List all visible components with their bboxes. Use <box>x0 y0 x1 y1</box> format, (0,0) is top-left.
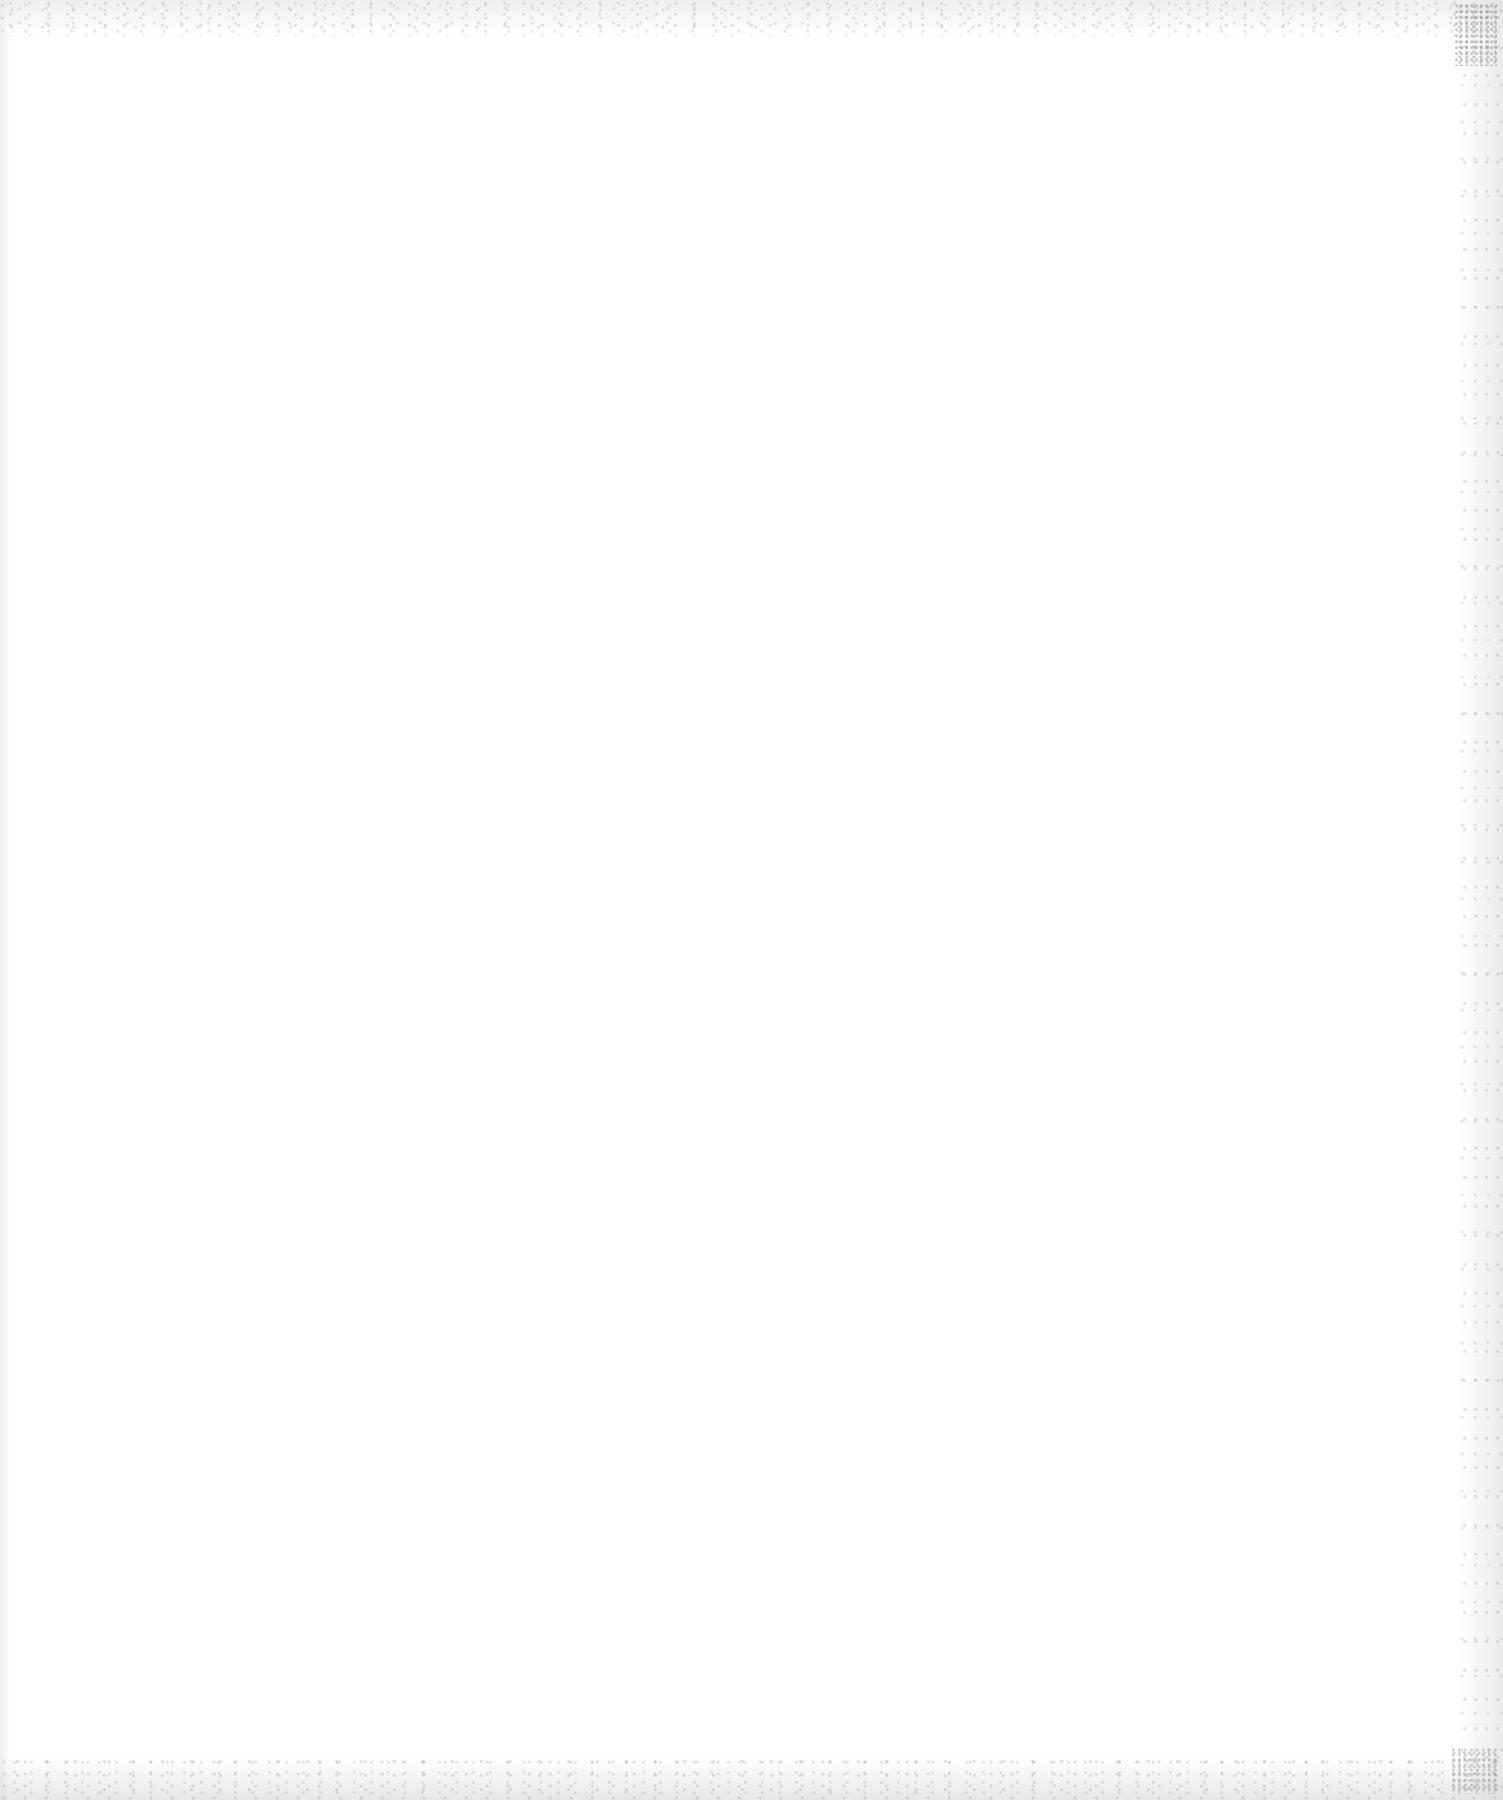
scan-speckle-bottom-right <box>1451 1748 1497 1794</box>
scan-edge-right <box>1457 0 1503 1800</box>
scan-speckle-top-right <box>1455 4 1497 66</box>
scan-edge-bottom <box>0 1756 1503 1800</box>
blank-page <box>0 0 1503 1800</box>
scan-edge-top <box>0 0 1503 36</box>
scan-edge-left <box>0 0 10 1800</box>
